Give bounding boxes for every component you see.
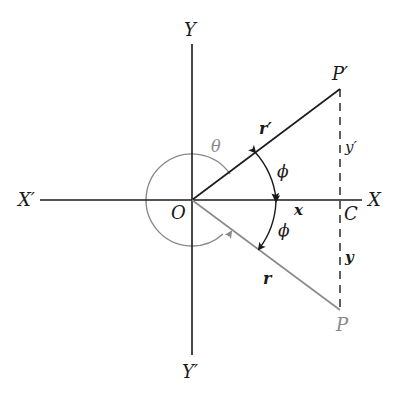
- label-x-axis: X: [366, 189, 382, 210]
- phi-arc-lower: [259, 201, 276, 249]
- label-r: r: [263, 269, 273, 288]
- label-origin: O: [171, 202, 186, 223]
- label-x-prime-axis: X′: [16, 189, 35, 210]
- label-r-prime: r′: [259, 119, 272, 138]
- label-theta: θ: [211, 137, 221, 156]
- label-y-length: y: [344, 248, 355, 266]
- label-point-p-prime: P′: [331, 63, 348, 84]
- label-x-length: x: [293, 201, 304, 219]
- radius-r: [192, 200, 340, 310]
- theta-arc-arrowhead: [228, 232, 231, 236]
- label-phi-lower: ϕ: [278, 220, 290, 240]
- label-y-prime-length: y′: [344, 138, 357, 156]
- phi-arc-upper: [255, 152, 276, 199]
- label-point-p: P: [335, 314, 349, 335]
- rotation-diagram: Y Y′ X′ X O P′ P C r′ r θ ϕ ϕ x y y′: [0, 0, 398, 396]
- label-y-axis: Y: [184, 19, 198, 40]
- label-point-c: C: [344, 203, 358, 224]
- label-y-prime-axis: Y′: [182, 361, 198, 382]
- label-phi-upper: ϕ: [277, 161, 289, 181]
